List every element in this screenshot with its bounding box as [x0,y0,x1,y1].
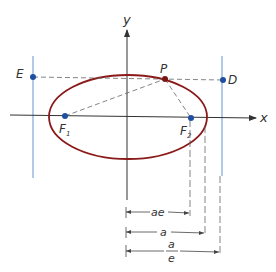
point-p [162,76,168,82]
point-f2 [188,115,194,121]
point-f1 [62,113,68,119]
point-d [220,77,226,83]
x-axis [10,115,256,118]
label-a-over-e-numerator: a [168,238,175,251]
label-f1: F1 [59,122,70,138]
y-axis-label: y [122,12,131,27]
x-axis-label: x [259,110,268,125]
point-e [30,74,36,80]
horizontal-dashed-line [33,77,223,80]
label-a: a [160,226,167,239]
label-ae: ae [151,206,165,219]
label-e: E [16,67,24,81]
label-d: D [228,73,237,87]
label-a-over-e-denominator: e [168,252,175,265]
ellipse-diagram: y x P D E F1 F2 ae a a e [0,0,276,272]
label-p: P [160,62,168,76]
